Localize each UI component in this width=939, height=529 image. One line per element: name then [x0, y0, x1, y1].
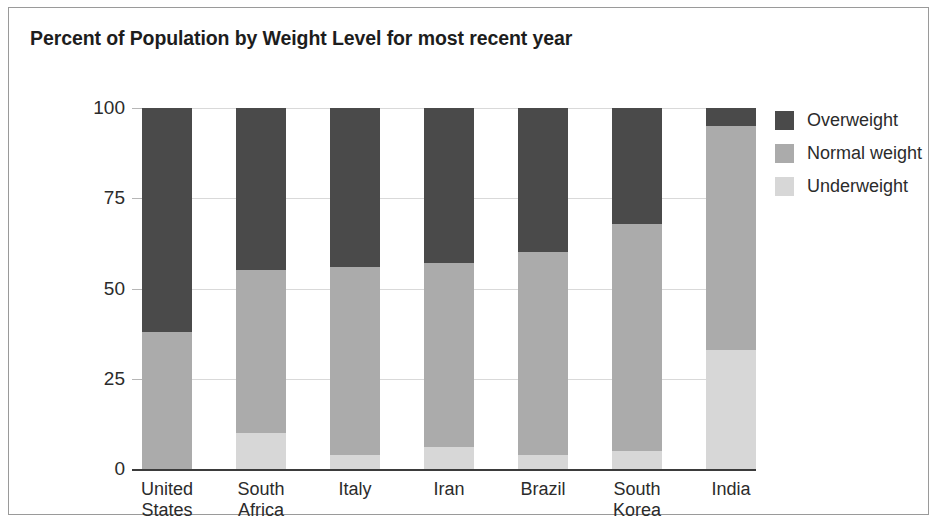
bar-segment-overweight[interactable] — [424, 108, 474, 263]
bar-group[interactable]: Iran — [424, 108, 474, 469]
bar-segment-underweight[interactable] — [612, 451, 662, 469]
y-tick-mark — [132, 289, 142, 290]
bar-segment-underweight[interactable] — [424, 447, 474, 469]
bar-group[interactable]: South Africa — [236, 108, 286, 469]
bar-segment-overweight[interactable] — [518, 108, 568, 252]
legend-swatch-icon — [775, 177, 794, 196]
bar-segment-normal-weight[interactable] — [518, 252, 568, 454]
bar-segment-underweight[interactable] — [236, 433, 286, 469]
y-tick-mark — [132, 198, 142, 199]
stacked-bar[interactable] — [236, 108, 286, 469]
chart-frame: Percent of Population by Weight Level fo… — [8, 7, 929, 515]
bar-segment-underweight[interactable] — [330, 455, 380, 469]
bar-group[interactable]: Brazil — [518, 108, 568, 469]
stacked-bar[interactable] — [518, 108, 568, 469]
x-axis-tick-label: India — [711, 479, 750, 500]
y-axis-tick-label: 0 — [114, 458, 125, 480]
legend-item-label: Normal weight — [807, 143, 922, 164]
bar-segment-normal-weight[interactable] — [236, 270, 286, 432]
stacked-bar[interactable] — [330, 108, 380, 469]
bar-segment-overweight[interactable] — [236, 108, 286, 270]
x-axis-tick-label: Iran — [433, 479, 464, 500]
legend-item[interactable]: Overweight — [775, 104, 922, 137]
bar-segment-normal-weight[interactable] — [330, 267, 380, 455]
bar-segment-overweight[interactable] — [330, 108, 380, 267]
stacked-bar[interactable] — [142, 108, 192, 469]
bar-segment-normal-weight[interactable] — [424, 263, 474, 447]
bar-segment-overweight[interactable] — [142, 108, 192, 332]
bar-segment-normal-weight[interactable] — [612, 224, 662, 451]
bar-segment-overweight[interactable] — [706, 108, 756, 126]
x-axis-tick-label: South Korea — [613, 479, 661, 521]
bar-segment-normal-weight[interactable] — [706, 126, 756, 350]
x-axis-tick-label: Brazil — [520, 479, 565, 500]
x-axis-tick-label: United States — [141, 479, 193, 521]
legend-swatch-icon — [775, 144, 794, 163]
legend-item-label: Underweight — [807, 176, 908, 197]
bar-group[interactable]: India — [706, 108, 756, 469]
y-axis-tick-label: 75 — [104, 187, 125, 209]
legend-item[interactable]: Normal weight — [775, 137, 922, 170]
y-axis-tick-label: 25 — [104, 368, 125, 390]
x-axis-line — [132, 469, 756, 471]
bar-group[interactable]: Italy — [330, 108, 380, 469]
bar-segment-overweight[interactable] — [612, 108, 662, 224]
bar-segment-underweight[interactable] — [706, 350, 756, 469]
bar-group[interactable]: United States — [142, 108, 192, 469]
y-axis-tick-label: 50 — [104, 278, 125, 300]
stacked-bar[interactable] — [424, 108, 474, 469]
chart-legend: OverweightNormal weightUnderweight — [775, 104, 922, 203]
legend-item-label: Overweight — [807, 110, 898, 131]
stacked-bar[interactable] — [612, 108, 662, 469]
y-axis-tick-label: 100 — [93, 97, 125, 119]
bar-segment-normal-weight[interactable] — [142, 332, 192, 469]
plot-area: 0255075100 United StatesSouth AfricaItal… — [142, 108, 756, 469]
x-axis-tick-label: Italy — [338, 479, 371, 500]
y-tick-mark — [132, 379, 142, 380]
bar-group[interactable]: South Korea — [612, 108, 662, 469]
bar-segment-underweight[interactable] — [518, 455, 568, 469]
y-tick-mark — [132, 108, 142, 109]
legend-swatch-icon — [775, 111, 794, 130]
page-title: Percent of Population by Weight Level fo… — [30, 27, 572, 50]
x-axis-tick-label: South Africa — [237, 479, 284, 521]
legend-item[interactable]: Underweight — [775, 170, 922, 203]
stacked-bar[interactable] — [706, 108, 756, 469]
